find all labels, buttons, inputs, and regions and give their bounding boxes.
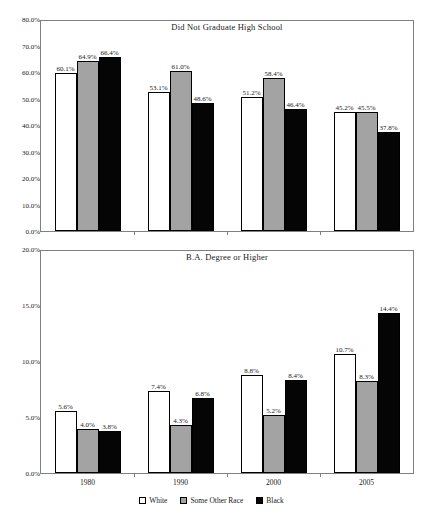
bar-group-container-bottom: 5.6%4.0%3.8%7.4%4.3%6.8%8.8%5.2%8.4%10.7… (41, 251, 413, 473)
legend-item-white[interactable]: White (139, 496, 167, 505)
bar-group: 7.4%4.3%6.8% (134, 251, 227, 473)
x-axis-tick-label: 2000 (227, 474, 320, 490)
bar-slot: 4.3% (170, 251, 192, 473)
bar-value-label: 5.2% (266, 408, 281, 415)
bar-white[interactable]: 8.8% (241, 375, 263, 473)
bar-some-other-race[interactable]: 4.0% (77, 429, 99, 473)
bar-black[interactable]: 3.8% (99, 431, 121, 473)
legend-swatch-icon (139, 497, 146, 504)
bar-value-label: 4.0% (80, 422, 95, 429)
bar-some-other-race[interactable]: 45.5% (356, 112, 378, 231)
bar-slot: 51.2% (241, 21, 263, 231)
bar-white[interactable]: 10.7% (334, 354, 356, 473)
y-axis-tick-label: 0.0% (4, 470, 40, 478)
bar-white[interactable]: 53.1% (148, 92, 170, 231)
bar-value-label: 60.1% (56, 66, 74, 73)
legend-item-black[interactable]: Black (256, 496, 284, 505)
bar-group: 8.8%5.2%8.4% (227, 251, 320, 473)
bar-white[interactable]: 5.6% (55, 411, 77, 473)
bar-slot: 58.4% (263, 21, 285, 231)
bar-slot: 3.8% (99, 251, 121, 473)
bar-slot: 8.3% (356, 251, 378, 473)
bar-white[interactable]: 51.2% (241, 97, 263, 231)
bar-some-other-race[interactable]: 58.4% (263, 78, 285, 231)
bar-slot: 7.4% (148, 251, 170, 473)
bar-slot: 61.0% (170, 21, 192, 231)
x-axis-bottom: 1980199020002005 (41, 474, 413, 490)
legend-swatch-icon (256, 497, 263, 504)
chart-title-top: Did Not Graduate High School (40, 22, 414, 32)
bar-value-label: 14.4% (379, 306, 397, 313)
y-axis-tick-label: 15.0% (4, 302, 40, 310)
bar-value-label: 45.5% (357, 105, 375, 112)
x-axis-tick-mark (227, 231, 228, 235)
legend-item-some-other-race[interactable]: Some Other Race (180, 496, 243, 505)
bar-some-other-race[interactable]: 64.9% (77, 61, 99, 231)
bar-some-other-race[interactable]: 4.3% (170, 425, 192, 473)
bar-some-other-race[interactable]: 5.2% (263, 415, 285, 473)
bar-slot: 8.4% (285, 251, 307, 473)
bar-black[interactable]: 46.4% (285, 109, 307, 231)
bar-value-label: 8.8% (244, 368, 259, 375)
y-axis-tick-label: 70.0% (4, 43, 40, 51)
chart-legend: WhiteSome Other RaceBlack (0, 496, 423, 505)
bar-group: 51.2%58.4%46.4% (227, 21, 320, 231)
legend-label: White (149, 496, 167, 505)
bar-black[interactable]: 37.8% (378, 132, 400, 231)
x-axis-tick-mark (320, 231, 321, 235)
bar-value-label: 66.4% (100, 50, 118, 57)
chart-panel-did-not-graduate-high-school: 0.0%10.0%20.0%30.0%40.0%50.0%60.0%70.0%8… (0, 14, 423, 232)
bar-value-label: 46.4% (286, 102, 304, 109)
y-axis-tick-label: 20.0% (4, 246, 40, 254)
bar-value-label: 64.9% (78, 54, 96, 61)
bar-group: 5.6%4.0%3.8% (41, 251, 134, 473)
figure: 0.0%10.0%20.0%30.0%40.0%50.0%60.0%70.0%8… (0, 0, 423, 518)
bar-slot: 37.8% (378, 21, 400, 231)
bar-value-label: 6.8% (195, 391, 210, 398)
bar-white[interactable]: 60.1% (55, 73, 77, 231)
legend-swatch-icon (180, 497, 187, 504)
bar-slot: 14.4% (378, 251, 400, 473)
bar-black[interactable]: 14.4% (378, 313, 400, 473)
bar-black[interactable]: 6.8% (192, 398, 214, 473)
bar-white[interactable]: 7.4% (148, 391, 170, 473)
bar-some-other-race[interactable]: 61.0% (170, 71, 192, 231)
bar-white[interactable]: 45.2% (334, 112, 356, 231)
y-axis-top: 0.0%10.0%20.0%30.0%40.0%50.0%60.0%70.0%8… (0, 20, 40, 232)
bar-slot: 66.4% (99, 21, 121, 231)
y-axis-tick-label: 30.0% (4, 149, 40, 157)
bar-value-label: 4.3% (173, 418, 188, 425)
bar-value-label: 10.7% (335, 347, 353, 354)
bar-value-label: 61.0% (171, 64, 189, 71)
y-axis-tick-label: 10.0% (4, 358, 40, 366)
bar-group-container-top: 60.1%64.9%66.4%53.1%61.0%48.6%51.2%58.4%… (41, 21, 413, 231)
bar-group: 45.2%45.5%37.8% (320, 21, 413, 231)
bar-value-label: 58.4% (264, 71, 282, 78)
chart-title-bottom: B.A. Degree or Higher (40, 252, 414, 262)
bar-group: 10.7%8.3%14.4% (320, 251, 413, 473)
bar-value-label: 8.4% (288, 373, 303, 380)
bar-slot: 5.2% (263, 251, 285, 473)
y-axis-tick-label: 10.0% (4, 202, 40, 210)
bar-slot: 4.0% (77, 251, 99, 473)
bar-some-other-race[interactable]: 8.3% (356, 381, 378, 473)
bar-slot: 60.1% (55, 21, 77, 231)
bar-black[interactable]: 66.4% (99, 57, 121, 231)
bar-slot: 10.7% (334, 251, 356, 473)
chart-panel-ba-degree-or-higher: 0.0%5.0%10.0%15.0%20.0% B.A. Degree or H… (0, 244, 423, 474)
bar-slot: 8.8% (241, 251, 263, 473)
bar-value-label: 45.2% (335, 105, 353, 112)
bar-slot: 45.2% (334, 21, 356, 231)
bar-value-label: 37.8% (379, 125, 397, 132)
y-axis-tick-label: 60.0% (4, 69, 40, 77)
bar-value-label: 8.3% (359, 374, 374, 381)
legend-label: Some Other Race (190, 496, 243, 505)
bar-black[interactable]: 48.6% (192, 103, 214, 231)
bar-value-label: 53.1% (149, 85, 167, 92)
bar-value-label: 5.6% (58, 404, 73, 411)
bar-slot: 6.8% (192, 251, 214, 473)
y-axis-tick-label: 5.0% (4, 414, 40, 422)
x-axis-tick-label: 1980 (41, 474, 134, 490)
bar-black[interactable]: 8.4% (285, 380, 307, 473)
bar-group: 53.1%61.0%48.6% (134, 21, 227, 231)
